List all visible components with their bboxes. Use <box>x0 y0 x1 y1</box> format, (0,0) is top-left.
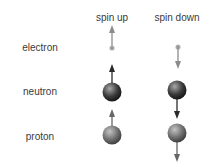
neutron-ball-icon <box>103 83 122 102</box>
arrowhead-up-icon <box>109 64 115 72</box>
electron-spin-down <box>175 44 181 69</box>
neutron-spin-down <box>168 81 187 120</box>
electron-dot-icon <box>109 45 114 50</box>
proton-spin-down <box>168 124 187 163</box>
arrowhead-up-icon <box>109 109 115 117</box>
proton-ball-icon <box>103 126 122 145</box>
spin-diagram <box>0 0 214 166</box>
arrowhead-up-icon <box>109 25 115 33</box>
arrowhead-down-icon <box>174 111 180 119</box>
arrowhead-down-icon <box>175 61 181 69</box>
neutron-ball-icon <box>168 81 187 100</box>
neutron-spin-up <box>103 64 122 102</box>
proton-ball-icon <box>168 124 187 143</box>
proton-spin-up <box>103 109 122 145</box>
arrowhead-down-icon <box>174 154 180 162</box>
electron-spin-up <box>109 25 115 51</box>
